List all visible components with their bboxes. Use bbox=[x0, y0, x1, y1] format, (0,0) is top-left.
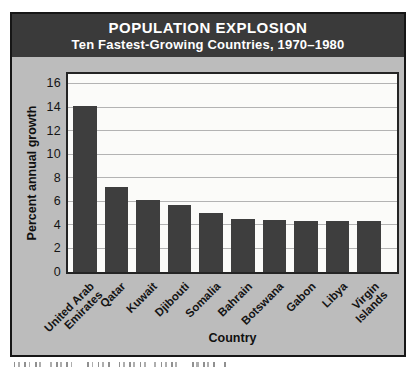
bar-united-arab-emirates bbox=[73, 106, 97, 272]
bar-libya bbox=[326, 221, 350, 272]
y-tick-label-12: 12 bbox=[12, 123, 61, 139]
x-tick-label-line: Qatar bbox=[98, 280, 128, 310]
y-tick-label-14: 14 bbox=[12, 99, 61, 115]
x-tick-label-line: Libya bbox=[319, 280, 349, 310]
plot-area bbox=[66, 72, 399, 274]
y-tick-label-6: 6 bbox=[12, 193, 61, 209]
gridline-y14 bbox=[68, 107, 397, 108]
y-tick-label-0: 0 bbox=[12, 264, 61, 280]
gridline-y10 bbox=[68, 154, 397, 155]
y-tick-label-10: 10 bbox=[12, 146, 61, 162]
y-tick-label-8: 8 bbox=[12, 170, 61, 186]
gridline-y16 bbox=[68, 83, 397, 84]
bar-qatar bbox=[105, 187, 129, 272]
x-tick-label-qatar: Qatar bbox=[98, 280, 128, 310]
chart-figure: POPULATION EXPLOSION Ten Fastest-Growing… bbox=[10, 12, 406, 357]
cropped-caption-remnant bbox=[14, 362, 226, 367]
y-tick-label-4: 4 bbox=[12, 217, 61, 233]
bar-gabon bbox=[294, 221, 318, 272]
gridline-y8 bbox=[68, 177, 397, 178]
y-tick-label-16: 16 bbox=[12, 75, 61, 91]
x-axis-title: Country bbox=[66, 331, 399, 345]
chart-header: POPULATION EXPLOSION Ten Fastest-Growing… bbox=[12, 14, 404, 57]
x-tick-label-gabon: Gabon bbox=[283, 280, 317, 314]
bar-virgin-islands bbox=[357, 221, 381, 272]
bar-botswana bbox=[263, 220, 287, 272]
x-tick-label-virgin-islands: VirginIslands bbox=[344, 280, 389, 325]
chart-subtitle: Ten Fastest-Growing Countries, 1970–1980 bbox=[72, 37, 345, 52]
chart-title: POPULATION EXPLOSION bbox=[109, 19, 308, 36]
bar-somalia bbox=[199, 213, 223, 272]
bar-djibouti bbox=[168, 205, 192, 272]
bar-bahrain bbox=[231, 219, 255, 272]
x-tick-label-line: Gabon bbox=[283, 280, 317, 314]
bar-kuwait bbox=[136, 200, 160, 272]
gridline-y12 bbox=[68, 130, 397, 131]
y-tick-label-2: 2 bbox=[12, 240, 61, 256]
x-tick-label-libya: Libya bbox=[319, 280, 349, 310]
